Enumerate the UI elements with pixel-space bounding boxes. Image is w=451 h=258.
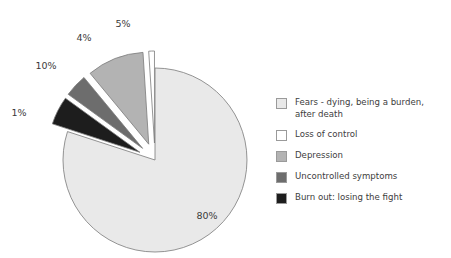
legend-item-burn-out[interactable]: Burn out: losing the fight xyxy=(276,192,448,204)
slice-label-5: 5% xyxy=(115,18,130,29)
legend-label-burn-out: Burn out: losing the fight xyxy=(295,192,402,204)
legend-label-fears: Fears - dying, being a burden, after dea… xyxy=(295,97,424,120)
legend-swatch-icon-depression xyxy=(276,151,287,162)
legend-swatch-icon-burn-out xyxy=(276,193,287,204)
legend-item-depression[interactable]: Depression xyxy=(276,150,448,162)
slice-label-4: 4% xyxy=(76,32,91,43)
legend-swatch-icon-loss-of-control xyxy=(276,130,287,141)
legend-swatch-icon-uncontrolled-symptoms xyxy=(276,172,287,183)
legend-item-loss-of-control[interactable]: Loss of control xyxy=(276,129,448,141)
slice-label-80: 80% xyxy=(196,210,217,221)
legend-item-fears[interactable]: Fears - dying, being a burden, after dea… xyxy=(276,97,448,120)
slice-label-1: 1% xyxy=(11,107,26,118)
pie-chart: 80% 1% 10% 4% 5% Fears - dying, being a … xyxy=(0,0,451,258)
legend-label-uncontrolled-symptoms: Uncontrolled symptoms xyxy=(295,171,397,183)
legend-label-loss-of-control: Loss of control xyxy=(295,129,357,141)
pie-slices xyxy=(52,51,247,252)
legend-swatch-icon-fears xyxy=(276,98,287,109)
slice-label-10: 10% xyxy=(35,60,56,71)
legend-label-depression: Depression xyxy=(295,150,343,162)
chart-legend: Fears - dying, being a burden, after dea… xyxy=(276,97,448,204)
legend-item-uncontrolled-symptoms[interactable]: Uncontrolled symptoms xyxy=(276,171,448,183)
pie-slice-loss-of-control[interactable] xyxy=(149,51,155,143)
